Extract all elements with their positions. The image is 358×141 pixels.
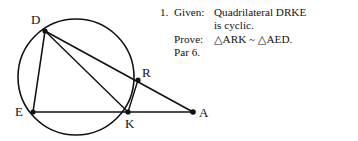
point-label-K: K bbox=[125, 116, 135, 131]
problem-number: 1. bbox=[160, 6, 174, 19]
problem-par-row: Par 6. bbox=[160, 46, 358, 59]
par-text: Par 6. bbox=[174, 46, 214, 59]
prove-text: △ARK ~ △AED. bbox=[214, 33, 358, 46]
point-K-dot bbox=[125, 109, 130, 114]
circumscribed-circle bbox=[18, 19, 134, 135]
point-E-dot bbox=[30, 109, 35, 114]
segment-D-K bbox=[45, 31, 128, 112]
point-label-D: D bbox=[31, 12, 40, 27]
prove-label: Prove: bbox=[174, 33, 214, 46]
point-D-dot bbox=[42, 28, 47, 33]
point-label-E: E bbox=[15, 104, 23, 119]
worksheet-page: D E R K A 1. Given: Quadrilateral DRKE i… bbox=[0, 0, 358, 141]
problem-prove-row: Prove: △ARK ~ △AED. bbox=[160, 33, 358, 46]
problem-statement: 1. Given: Quadrilateral DRKE is cyclic. … bbox=[160, 6, 358, 60]
point-label-A: A bbox=[199, 105, 209, 120]
given-label: Given: bbox=[174, 6, 214, 19]
point-R-dot bbox=[135, 77, 140, 82]
problem-given-row: 1. Given: Quadrilateral DRKE bbox=[160, 6, 358, 19]
given-text-line-2: is cyclic. bbox=[214, 19, 358, 32]
point-label-R: R bbox=[142, 65, 151, 80]
given-text-line-1: Quadrilateral DRKE bbox=[214, 6, 358, 19]
segment-D-E bbox=[33, 31, 45, 112]
point-A-dot bbox=[190, 109, 196, 115]
